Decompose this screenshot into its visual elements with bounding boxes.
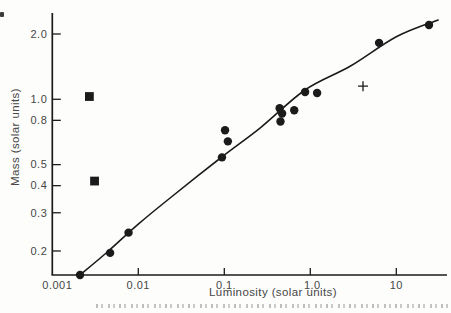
y-tick-label: 0.3 bbox=[31, 207, 48, 219]
data-point-plus bbox=[358, 81, 368, 91]
data-point-square bbox=[85, 92, 94, 101]
scan-artifact-dash bbox=[0, 12, 4, 17]
data-point-circle bbox=[224, 137, 232, 145]
data-point-circle bbox=[313, 89, 321, 97]
data-point-circle bbox=[278, 109, 286, 117]
cutoff-caption-fragment bbox=[96, 304, 448, 308]
y-tick-label: 0.5 bbox=[31, 158, 48, 170]
x-tick-label: 10 bbox=[390, 279, 403, 291]
data-point-circle bbox=[218, 153, 226, 161]
x-tick-label: 0.001 bbox=[42, 279, 72, 291]
data-point-circle bbox=[290, 106, 298, 114]
y-tick-label: 1.0 bbox=[31, 93, 48, 105]
data-point-square bbox=[90, 177, 99, 186]
x-axis-label: Luminosity (solar units) bbox=[181, 285, 365, 299]
mass-luminosity-figure: 2.01.00.80.50.40.30.20.0010.010.11.010 L… bbox=[0, 0, 451, 313]
x-tick-label: 0.01 bbox=[127, 279, 150, 291]
data-point-circle bbox=[106, 249, 114, 257]
data-point-circle bbox=[221, 126, 229, 134]
fit-curve bbox=[80, 20, 438, 275]
y-tick-label: 0.4 bbox=[31, 179, 48, 191]
y-axis-label: Mass (solar units) bbox=[7, 67, 23, 207]
scatter-plot-canvas: 2.01.00.80.50.40.30.20.0010.010.11.010 bbox=[0, 0, 451, 313]
y-tick-label: 2.0 bbox=[31, 28, 48, 40]
y-tick-label: 0.2 bbox=[31, 245, 48, 257]
data-point-circle bbox=[301, 88, 309, 96]
data-point-circle bbox=[124, 228, 132, 236]
data-point-circle bbox=[276, 117, 284, 125]
data-point-circle bbox=[76, 271, 84, 279]
data-point-circle bbox=[425, 21, 433, 29]
data-point-circle bbox=[375, 39, 383, 47]
y-tick-label: 0.8 bbox=[31, 114, 48, 126]
